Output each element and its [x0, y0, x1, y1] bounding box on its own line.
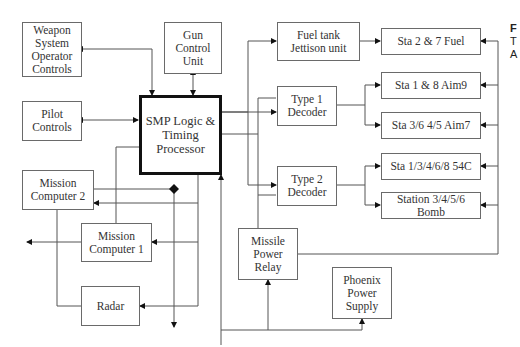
- side-caption-line-3: A: [510, 48, 517, 61]
- side-caption: F T A: [510, 22, 517, 61]
- sta-bomb-box: Station 3/4/5/6 Bomb: [381, 192, 481, 219]
- phoenix-power-supply-label: Phoenix Power Supply: [333, 274, 391, 313]
- sta-54c-box: Sta 1/3/4/6/8 54C: [381, 153, 481, 180]
- missile-power-relay-box: Missile Power Relay: [238, 228, 298, 280]
- pilot-controls-box: Pilot Controls: [22, 101, 82, 141]
- type1-decoder-box: Type 1 Decoder: [277, 86, 337, 126]
- sta-54c-label: Sta 1/3/4/6/8 54C: [390, 160, 471, 173]
- type2-decoder-label: Type 2 Decoder: [278, 173, 336, 199]
- junction-dot: [169, 184, 179, 194]
- gun-control-unit-box: Gun Control Unit: [164, 22, 222, 74]
- sta-fuel-label: Sta 2 & 7 Fuel: [397, 35, 464, 48]
- sta-aim7-box: Sta 3/6 4/5 Aim7: [381, 112, 481, 139]
- side-caption-line-1: F: [510, 22, 517, 34]
- sta-bomb-label: Station 3/4/5/6 Bomb: [382, 193, 480, 219]
- pilot-controls-label: Pilot Controls: [23, 108, 81, 134]
- radar-box: Radar: [81, 286, 140, 326]
- sta-aim7-label: Sta 3/6 4/5 Aim7: [392, 119, 470, 132]
- wso-controls-label: Weapon System Operator Controls: [23, 24, 81, 76]
- fuel-jettison-label: Fuel tank Jettison unit: [278, 29, 359, 55]
- missile-power-relay-label: Missile Power Relay: [239, 235, 297, 274]
- wso-controls-box: Weapon System Operator Controls: [22, 22, 82, 77]
- radar-label: Radar: [97, 300, 124, 313]
- mission-computer-1-label: Mission Computer 1: [82, 230, 151, 256]
- phoenix-power-supply-box: Phoenix Power Supply: [332, 267, 392, 319]
- mission-computer-2-box: Mission Computer 2: [22, 170, 94, 210]
- fuel-jettison-box: Fuel tank Jettison unit: [277, 22, 360, 61]
- mission-computer-2-label: Mission Computer 2: [23, 177, 93, 203]
- type2-decoder-box: Type 2 Decoder: [277, 166, 337, 206]
- smp-processor-box: SMP Logic & Timing Processor: [139, 95, 222, 175]
- gun-control-unit-label: Gun Control Unit: [165, 29, 221, 68]
- sta-fuel-box: Sta 2 & 7 Fuel: [381, 28, 481, 55]
- side-caption-line-2: T: [510, 35, 517, 48]
- type1-decoder-label: Type 1 Decoder: [278, 93, 336, 119]
- smp-processor-label: SMP Logic & Timing Processor: [142, 114, 219, 156]
- mission-computer-1-box: Mission Computer 1: [81, 223, 152, 262]
- sta-aim9-label: Sta 1 & 8 Aim9: [395, 79, 467, 92]
- sta-aim9-box: Sta 1 & 8 Aim9: [381, 72, 481, 99]
